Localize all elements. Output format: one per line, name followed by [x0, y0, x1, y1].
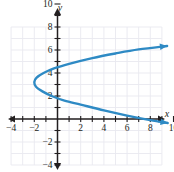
- y-tick-label: 6: [48, 45, 53, 55]
- axis-name-labels: y x: [57, 2, 170, 119]
- x-tick-label: −2: [29, 123, 39, 133]
- y-axis-arrow-down: [54, 163, 61, 170]
- y-axis-label: y: [57, 2, 63, 13]
- x-tick-label: 10: [169, 123, 174, 133]
- x-tick-label: −4: [6, 123, 16, 133]
- x-tick-label: 2: [78, 123, 83, 133]
- graph-figure: −4−2246810−4−2246810 y x: [0, 0, 174, 172]
- y-tick-label: 8: [48, 22, 53, 32]
- grid-lines: [11, 27, 162, 165]
- y-tick-label: −4: [42, 160, 52, 170]
- y-tick-label: 10: [43, 0, 53, 9]
- axes-group: [8, 8, 165, 170]
- x-tick-label: 6: [125, 123, 130, 133]
- y-tick-label: −2: [42, 137, 52, 147]
- x-axis-label: x: [164, 108, 170, 119]
- x-tick-label: 8: [148, 123, 153, 133]
- tick-labels: −4−2246810−4−2246810: [6, 0, 174, 170]
- x-tick-label: 4: [102, 123, 107, 133]
- coordinate-plane-svg: −4−2246810−4−2246810 y x: [0, 0, 174, 172]
